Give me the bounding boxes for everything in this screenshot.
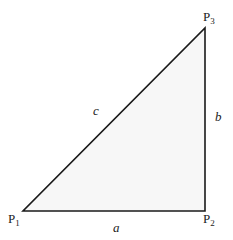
side-label-c: c xyxy=(93,103,99,118)
vertex-label-p3: P3 xyxy=(203,9,215,26)
vertex-label-p1: P1 xyxy=(8,211,20,228)
side-label-a: a xyxy=(113,220,120,235)
side-label-b: b xyxy=(215,109,222,124)
triangle-shape xyxy=(23,28,205,211)
vertex-label-p2: P2 xyxy=(203,211,215,228)
right-triangle-diagram: P1 P2 P3 a b c xyxy=(0,0,233,240)
